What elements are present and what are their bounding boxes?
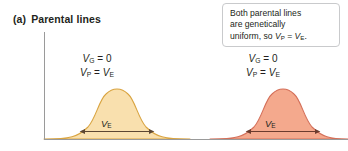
right-vp-subscript: P bbox=[253, 71, 258, 78]
right-vp-ve-subscript: E bbox=[275, 71, 280, 78]
left-vp-subscript: P bbox=[87, 71, 92, 78]
left-vg-subscript: G bbox=[89, 57, 94, 64]
left-ve-span-label: VE bbox=[101, 118, 112, 129]
left-ve-subscript: E bbox=[107, 122, 111, 129]
right-vp-symbol: V bbox=[246, 67, 253, 78]
right-vg-subscript: G bbox=[255, 57, 260, 64]
left-vp-label: VP = VE bbox=[62, 66, 132, 80]
left-vp-ve-subscript: E bbox=[109, 71, 114, 78]
left-curve-variance-labels: VG = 0 VP = VE bbox=[62, 52, 132, 79]
right-curve-variance-labels: VG = 0 VP = VE bbox=[228, 52, 298, 79]
left-vp-equals: = bbox=[91, 67, 102, 78]
left-vp-symbol: V bbox=[80, 67, 87, 78]
right-ve-span-label: VE bbox=[265, 118, 276, 129]
left-vg-label: VG = 0 bbox=[62, 52, 132, 66]
right-vp-equals: = bbox=[257, 67, 268, 78]
right-vg-value: = 0 bbox=[261, 53, 278, 64]
figure-panel-a: (a)Parental lines Both parental lines ar… bbox=[0, 0, 348, 151]
left-vg-value: = 0 bbox=[95, 53, 112, 64]
right-vg-label: VG = 0 bbox=[228, 52, 298, 66]
right-vp-label: VP = VE bbox=[228, 66, 298, 80]
right-ve-subscript: E bbox=[271, 122, 275, 129]
